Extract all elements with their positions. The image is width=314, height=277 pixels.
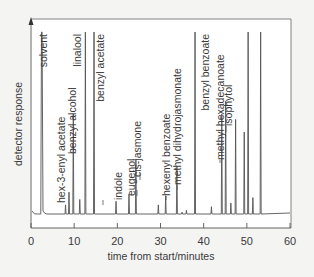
peak-label-isophytol: isophytol bbox=[222, 85, 234, 126]
x-tick-label: 20 bbox=[111, 235, 123, 247]
x-tick-label: 30 bbox=[154, 235, 166, 247]
x-axis-tick-labels: 0102030405060 bbox=[28, 235, 296, 247]
x-tick-label: 50 bbox=[241, 235, 253, 247]
chromatogram-chart: 0102030405060 time from start/minutes de… bbox=[0, 0, 314, 277]
peak-label-benzyl-alcohol: benzyl alcohol bbox=[66, 87, 78, 154]
x-tick-label: 10 bbox=[68, 235, 80, 247]
peak-label-benzyl-benzoate: benzyl benzoate bbox=[199, 34, 211, 111]
x-tick-label: 60 bbox=[284, 235, 296, 247]
peak-label-benzyl-acetate: benzyl acetate bbox=[94, 34, 106, 102]
peak-label-indole: indole bbox=[112, 172, 124, 200]
x-tick-label: 40 bbox=[198, 235, 210, 247]
peak-label-linalool: linalool bbox=[71, 34, 83, 67]
x-tick-label: 0 bbox=[28, 235, 34, 247]
peak-label-solvent: solvent bbox=[37, 34, 49, 67]
peak-label-cis-jasmone: cis-jasmone bbox=[131, 121, 143, 177]
peak-label-methyl-dihydrojasmonate: methyl dihydrojasmonate bbox=[171, 68, 183, 185]
y-axis-label: detector response bbox=[12, 82, 24, 166]
x-axis-label: time from start/minutes bbox=[108, 250, 215, 262]
